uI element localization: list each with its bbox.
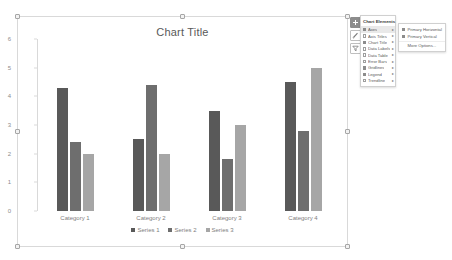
chevron-right-icon[interactable]: ▸ bbox=[392, 34, 394, 38]
resize-handle-top-middle[interactable] bbox=[180, 14, 185, 19]
axes-submenu-item[interactable]: Primary Vertical bbox=[399, 33, 445, 40]
checkbox-icon[interactable] bbox=[363, 79, 366, 82]
axes-submenu-list: Primary HorizontalPrimary Vertical bbox=[399, 26, 445, 40]
legend-label: Series 1 bbox=[137, 227, 159, 233]
y-tick-label: 6 bbox=[0, 36, 11, 42]
checkbox-icon[interactable] bbox=[363, 66, 366, 69]
checkbox-icon[interactable] bbox=[363, 28, 366, 31]
bar[interactable] bbox=[222, 159, 233, 211]
legend-item[interactable]: Series 2 bbox=[168, 227, 196, 233]
chevron-right-icon[interactable]: ▸ bbox=[392, 66, 394, 70]
bar[interactable] bbox=[159, 154, 170, 211]
legend-label: Series 2 bbox=[174, 227, 196, 233]
chart-element-label: Legend bbox=[368, 72, 382, 77]
y-tick-label: 4 bbox=[0, 93, 11, 99]
checkbox-icon[interactable] bbox=[363, 47, 366, 50]
chevron-right-icon[interactable]: ▸ bbox=[392, 47, 394, 51]
funnel-icon bbox=[352, 45, 359, 52]
axes-more-options[interactable]: More Options... bbox=[399, 41, 445, 49]
category-group bbox=[113, 39, 189, 211]
y-tick-label: 5 bbox=[0, 65, 11, 71]
chevron-right-icon[interactable]: ▸ bbox=[392, 53, 394, 57]
checkbox-icon[interactable] bbox=[363, 53, 366, 56]
chevron-right-icon[interactable]: ▸ bbox=[392, 28, 394, 32]
category-axis-label: Category 2 bbox=[136, 215, 165, 221]
plus-icon bbox=[352, 19, 359, 26]
chart-element-label: Gridlines bbox=[368, 65, 385, 70]
chart-legend[interactable]: Series 1Series 2Series 3 bbox=[18, 227, 347, 233]
chart-element-label: Chart Title bbox=[368, 40, 387, 45]
chevron-right-icon[interactable]: ▸ bbox=[392, 72, 394, 76]
bars-layer: Category 1Category 2Category 3Category 4 bbox=[37, 39, 339, 211]
category-axis-label: Category 1 bbox=[60, 215, 89, 221]
legend-item[interactable]: Series 1 bbox=[131, 227, 159, 233]
checkbox-icon[interactable] bbox=[363, 34, 366, 37]
checkbox-icon[interactable] bbox=[363, 41, 366, 44]
checkbox-icon[interactable] bbox=[363, 73, 366, 76]
legend-swatch bbox=[131, 228, 135, 232]
plot-area[interactable]: 0123456 Category 1Category 2Category 3Ca… bbox=[18, 17, 347, 246]
bar[interactable] bbox=[70, 142, 81, 211]
chart-element-label: Error Bars bbox=[368, 59, 387, 64]
y-tick-label: 1 bbox=[0, 179, 11, 185]
bar[interactable] bbox=[83, 154, 94, 211]
bar[interactable] bbox=[311, 68, 322, 211]
chart-elements-list: Axes▸Axis Titles▸Chart Title▸Data Labels… bbox=[361, 27, 395, 84]
chart-element-item[interactable]: Trendline▸ bbox=[361, 78, 395, 84]
chevron-right-icon[interactable]: ▸ bbox=[392, 79, 394, 83]
y-tick-label: 3 bbox=[0, 122, 11, 128]
checkbox-icon[interactable] bbox=[402, 35, 405, 38]
resize-handle-bottom-left[interactable] bbox=[15, 244, 20, 249]
chart-element-label: Axes bbox=[368, 27, 377, 32]
axes-submenu-label: Primary Horizontal bbox=[407, 27, 441, 32]
bar[interactable] bbox=[146, 85, 157, 211]
chart-element-label: Data Labels bbox=[368, 46, 390, 51]
checkbox-icon[interactable] bbox=[363, 60, 366, 63]
resize-handle-top-left[interactable] bbox=[15, 14, 20, 19]
axes-submenu-item[interactable]: Primary Horizontal bbox=[399, 26, 445, 33]
chart-object[interactable]: Chart Title 0123456 Category 1Category 2… bbox=[17, 16, 348, 247]
brush-icon bbox=[352, 32, 359, 39]
resize-handle-bottom-right[interactable] bbox=[345, 244, 350, 249]
chart-elements-menu[interactable]: Chart Elements Axes▸Axis Titles▸Chart Ti… bbox=[360, 15, 396, 87]
chevron-right-icon[interactable]: ▸ bbox=[392, 40, 394, 44]
bar[interactable] bbox=[133, 139, 144, 211]
bar[interactable] bbox=[209, 111, 220, 211]
chart-element-label: Data Table bbox=[368, 53, 388, 58]
chart-element-label: Axis Titles bbox=[368, 34, 387, 39]
chart-element-label: Trendline bbox=[368, 78, 385, 83]
bar[interactable] bbox=[298, 131, 309, 211]
category-group bbox=[37, 39, 113, 211]
legend-swatch bbox=[168, 228, 172, 232]
bar[interactable] bbox=[235, 125, 246, 211]
legend-label: Series 3 bbox=[212, 227, 234, 233]
axes-submenu[interactable]: Primary HorizontalPrimary Vertical More … bbox=[398, 23, 446, 52]
axes-submenu-label: Primary Vertical bbox=[407, 34, 436, 39]
resize-handle-middle-right[interactable] bbox=[345, 129, 350, 134]
y-tick-label: 2 bbox=[0, 151, 11, 157]
category-axis-label: Category 4 bbox=[288, 215, 317, 221]
y-tick-label: 0 bbox=[0, 208, 11, 214]
resize-handle-bottom-middle[interactable] bbox=[180, 244, 185, 249]
legend-item[interactable]: Series 3 bbox=[206, 227, 234, 233]
chevron-right-icon[interactable]: ▸ bbox=[392, 60, 394, 64]
resize-handle-middle-left[interactable] bbox=[15, 129, 20, 134]
chart-elements-heading: Chart Elements bbox=[361, 18, 395, 27]
category-axis-label: Category 3 bbox=[212, 215, 241, 221]
legend-swatch bbox=[206, 228, 210, 232]
bar[interactable] bbox=[57, 88, 68, 211]
category-group bbox=[265, 39, 341, 211]
checkbox-icon[interactable] bbox=[402, 28, 405, 31]
bar[interactable] bbox=[285, 82, 296, 211]
category-group bbox=[189, 39, 265, 211]
